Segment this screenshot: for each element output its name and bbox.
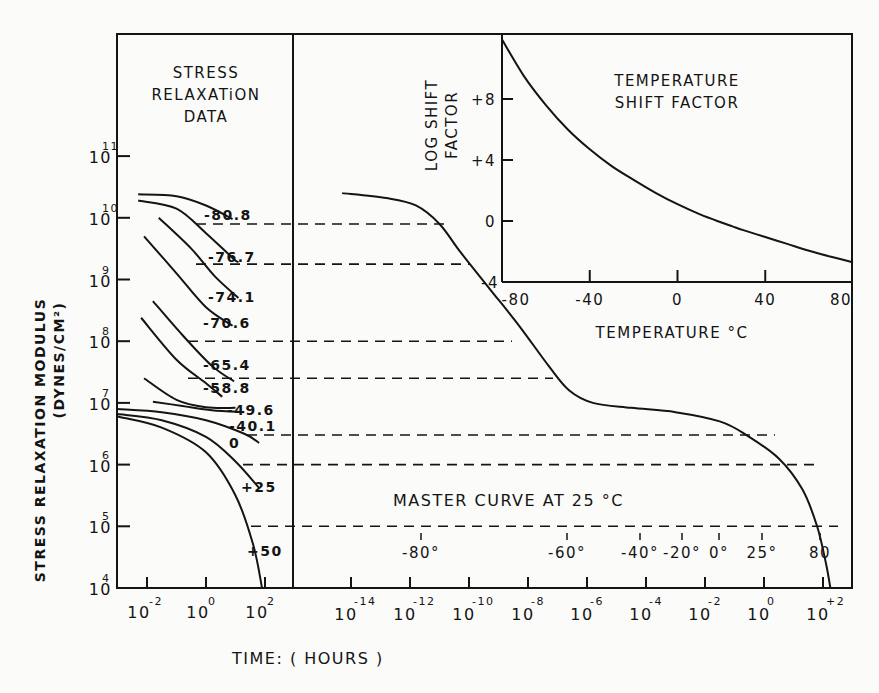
- inset-title-line: SHIFT FACTOR: [615, 94, 740, 112]
- svg-text:10: 10: [186, 603, 209, 622]
- svg-text:0: 0: [672, 291, 683, 309]
- title-line: STRESS: [173, 64, 240, 82]
- shift-dashed-lines: [188, 224, 838, 526]
- y-axis-units: (DYNES/CM²): [51, 302, 67, 419]
- curve-temperature-label: -70.6: [203, 315, 251, 331]
- modulus-y-axis: 10111010109108107106105104: [89, 140, 130, 599]
- left-time-x-axis: 10-2100102: [127, 577, 275, 622]
- master-time-x-axis: 10-1410-1210-1010-810-610-410-210010+2: [334, 577, 845, 624]
- temperature-marker-label: -20°: [663, 544, 701, 562]
- svg-text:+2: +2: [826, 595, 845, 608]
- curve-temperature-label: -76.7: [208, 249, 256, 265]
- curve-temperature-label: +50: [247, 543, 283, 559]
- curve-temperature-label: -58.8: [203, 380, 251, 396]
- svg-text:-2: -2: [149, 595, 163, 608]
- inset-y-label: LOG SHIFT: [423, 79, 441, 171]
- temperature-marker-label: -80°: [402, 544, 440, 562]
- y-tick-exponent: 6: [102, 449, 111, 462]
- stress-relaxation-data-title: STRESSRELAXATiONDATA: [151, 64, 260, 126]
- svg-text:-8: -8: [531, 595, 545, 608]
- shift-factor-chart: +8+40-4-80-4004080TEMPERATURESHIFT FACTO…: [423, 40, 853, 342]
- svg-text:0: 0: [485, 213, 496, 231]
- curve-temperature-label: -40.1: [229, 418, 277, 434]
- master-curve-title: MASTER CURVE AT 25 °C: [393, 491, 624, 510]
- relaxation-curves: -80.8-76.7-74.1-70.6-65.4-58.8-49.6-40.1…: [118, 194, 283, 588]
- curve-temperature-label: +25: [241, 479, 277, 495]
- svg-text:-4: -4: [481, 274, 499, 292]
- temperature-marker-label: -40°: [621, 544, 659, 562]
- svg-text:-6: -6: [590, 595, 604, 608]
- temperature-marker-label: -60°: [548, 544, 586, 562]
- svg-text:10: 10: [127, 603, 150, 622]
- master-temperature-markers: -80°-60°-40°-20°0°25°80: [402, 533, 831, 562]
- svg-text:-40: -40: [575, 291, 604, 309]
- curve-temperature-label: -80.8: [204, 207, 252, 223]
- relaxation-curve: [118, 416, 263, 588]
- curve-temperature-label: 0: [229, 435, 240, 451]
- inset-x-label: TEMPERATURE °C: [595, 324, 749, 342]
- curve-temperature-label: -74.1: [208, 289, 256, 305]
- svg-text:-80: -80: [502, 291, 531, 309]
- svg-text:-14: -14: [354, 595, 376, 608]
- svg-text:-4: -4: [649, 595, 663, 608]
- svg-text:80: 80: [830, 291, 852, 309]
- y-tick-exponent: 8: [102, 325, 111, 338]
- inset-title-line: TEMPERATURE: [613, 72, 740, 90]
- x-axis-label: TIME: ( HOURS ): [231, 649, 384, 668]
- temperature-marker-label: 80: [809, 544, 831, 562]
- svg-text:2: 2: [267, 595, 276, 608]
- y-tick-exponent: 10: [102, 202, 119, 215]
- svg-text:-12: -12: [413, 595, 435, 608]
- curve-temperature-label: -65.4: [203, 357, 251, 373]
- svg-text:0: 0: [767, 595, 776, 608]
- y-tick-exponent: 5: [102, 510, 111, 523]
- svg-text:40: 40: [754, 291, 776, 309]
- svg-text:10: 10: [245, 603, 268, 622]
- svg-text:+4: +4: [471, 152, 496, 170]
- curve-temperature-label: -49.6: [227, 402, 275, 418]
- y-tick-exponent: 11: [102, 140, 119, 153]
- svg-text:0: 0: [208, 595, 217, 608]
- svg-text:-2: -2: [708, 595, 722, 608]
- svg-text:+8: +8: [471, 91, 496, 109]
- master-curve: [342, 193, 830, 588]
- svg-text:-10: -10: [472, 595, 494, 608]
- stress-relaxation-figure: STRESSRELAXATiONDATA 1011101010910810710…: [0, 0, 879, 693]
- title-line: DATA: [184, 108, 229, 126]
- temperature-marker-label: 0°: [709, 544, 729, 562]
- y-axis-label: STRESS RELAXATION MODULUS: [32, 298, 48, 582]
- title-line: RELAXATiON: [151, 86, 260, 104]
- y-tick-exponent: 7: [102, 387, 111, 400]
- y-tick-exponent: 9: [102, 264, 111, 277]
- inset-y-label: FACTOR: [443, 91, 461, 159]
- y-tick-exponent: 4: [102, 572, 111, 585]
- temperature-marker-label: 25°: [746, 544, 777, 562]
